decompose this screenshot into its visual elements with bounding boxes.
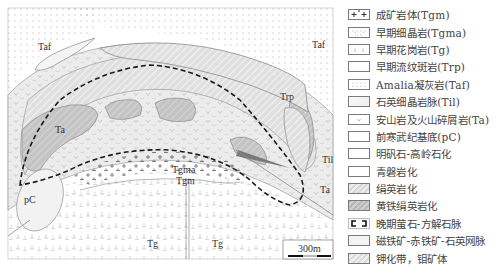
- legend-item-potassic: 钾化带，钼矿体: [348, 249, 502, 266]
- legend-label: 明矾石-高岭石化: [376, 146, 451, 161]
- scale-bar: 300m: [283, 240, 333, 259]
- legend-item-pc: 前寒武纪基底(pC): [348, 128, 502, 145]
- legend-label: Amalia凝灰岩(Taf): [376, 77, 470, 92]
- label-trp: Trp: [280, 91, 294, 102]
- label-tg-left: Tg: [147, 238, 158, 249]
- label-ta-right: Ta: [320, 184, 330, 195]
- legend-label: 青磐岩化: [376, 164, 417, 179]
- legend-label: 早期细晶岩(Tgma): [376, 25, 466, 40]
- legend-item-pyrite-phyllic: 黄铁绢英岩化: [348, 197, 502, 214]
- swatch-granite-icon: [348, 44, 370, 55]
- legend-label: 成矿岩体(Tgm): [376, 7, 450, 22]
- swatch-blank-icon: [348, 148, 370, 159]
- legend-label: 钾化带，钼矿体: [376, 251, 447, 266]
- label-taf-left: Taf: [38, 41, 52, 52]
- swatch-aplite-icon: [348, 27, 370, 38]
- legend-item-tgma: 早期细晶岩(Tgma): [348, 23, 502, 40]
- legend-label: 早期流纹斑岩(Trp): [376, 59, 465, 74]
- legend-item-fluorite-calcite: 晚期萤石-方解石脉: [348, 215, 502, 232]
- legend-label: 前寒武纪基底(pC): [376, 129, 461, 144]
- legend-item-alunite: 明矾石-高岭石化: [348, 145, 502, 162]
- legend-item-tg: 早期花岗岩(Tg): [348, 41, 502, 58]
- swatch-blank-icon: [348, 131, 370, 142]
- legend-item-til: 石英细晶岩脉(Til): [348, 93, 502, 110]
- legend-label: 绢英岩化: [376, 181, 417, 196]
- swatch-blank-icon: [348, 61, 370, 72]
- scale-bar-label: 300m: [298, 243, 321, 254]
- label-til: Til: [322, 154, 334, 165]
- legend-item-magnetite: 磁铁矿-赤铁矿-石英网脉: [348, 232, 502, 249]
- legend-label: 磁铁矿-赤铁矿-石英网脉: [376, 233, 486, 248]
- legend-label: 晚期萤石-方解石脉: [376, 216, 461, 231]
- legend-item-taf: Amalia凝灰岩(Taf): [348, 76, 502, 93]
- swatch-v-icon: [348, 114, 370, 125]
- label-tg-center: Tg: [212, 238, 223, 249]
- swatch-blank-icon: [348, 96, 370, 107]
- label-pc: pC: [24, 194, 36, 205]
- label-taf-right: Taf: [312, 39, 326, 50]
- zone-pyrite-phyllic-mid2: [155, 98, 196, 122]
- label-tgm: Tgm: [176, 175, 195, 186]
- swatch-light-icon: [348, 235, 370, 246]
- legend-item-trp: 早期流纹斑岩(Trp): [348, 58, 502, 75]
- swatch-blank-icon: [348, 166, 370, 177]
- legend-item-propylitic: 青磐岩化: [348, 163, 502, 180]
- legend-item-ta: 安山岩及火山碎屑岩(Ta): [348, 110, 502, 127]
- swatch-hatch-light-icon: [348, 183, 370, 194]
- legend-item-tgm: 成矿岩体(Tgm): [348, 6, 502, 23]
- swatch-hatch-light-icon: [348, 253, 370, 264]
- legend-item-phyllic: 绢英岩化: [348, 180, 502, 197]
- swatch-dashed-border-icon: [348, 218, 370, 229]
- label-tgma: Tgma: [172, 164, 196, 175]
- swatch-dots-icon: [348, 79, 370, 90]
- legend-label: 安山岩及火山碎屑岩(Ta): [376, 112, 489, 127]
- legend-label: 石英细晶岩脉(Til): [376, 94, 460, 109]
- legend-label: 黄铁绢英岩化: [376, 198, 437, 213]
- swatch-hatch-dark-icon: [348, 200, 370, 211]
- swatch-cross-icon: [348, 9, 370, 20]
- geologic-map: Taf Taf Trp Ta Til Ta pC Tgma Tgm Tg Tg …: [0, 0, 340, 267]
- legend-label: 早期花岗岩(Tg): [376, 42, 450, 57]
- legend: 成矿岩体(Tgm) 早期细晶岩(Tgma) 早期花岗岩(Tg) 早期流纹斑岩(T…: [348, 6, 502, 267]
- label-ta-left: Ta: [55, 124, 65, 135]
